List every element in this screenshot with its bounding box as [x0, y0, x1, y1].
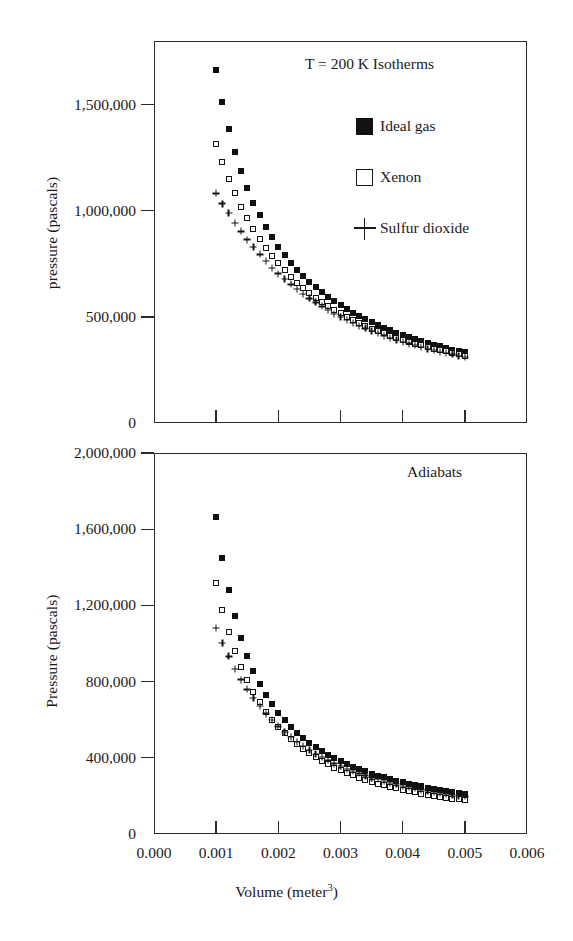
data-point-ideal-gas [219, 99, 225, 105]
data-point-xenon [294, 280, 300, 286]
data-point-sulfur-dioxide [244, 686, 251, 693]
x-tick-label: 0.005 [447, 844, 482, 862]
x-tick-label: 0.004 [385, 844, 420, 862]
data-point-sulfur-dioxide [231, 219, 238, 226]
data-point-xenon [213, 580, 219, 586]
data-point-xenon [226, 629, 232, 635]
data-point-ideal-gas [275, 244, 281, 250]
data-point-xenon [250, 226, 256, 232]
data-point-xenon [244, 215, 250, 221]
data-point-xenon [213, 141, 219, 147]
data-point-xenon [282, 267, 288, 273]
data-point-ideal-gas [269, 701, 275, 707]
data-point-sulfur-dioxide [461, 353, 468, 360]
data-point-ideal-gas [232, 613, 238, 619]
data-point-sulfur-dioxide [461, 793, 468, 800]
data-point-sulfur-dioxide [250, 695, 257, 702]
data-point-xenon [257, 236, 263, 242]
panel-isotherms: pressure (pascals) 0500,0001,000,0001,50… [0, 0, 573, 452]
data-point-ideal-gas [282, 717, 288, 723]
data-point-ideal-gas [369, 319, 375, 325]
data-point-ideal-gas [250, 200, 256, 206]
data-point-ideal-gas [232, 149, 238, 155]
data-point-xenon [232, 190, 238, 196]
data-point-ideal-gas [344, 306, 350, 312]
data-point-ideal-gas [282, 252, 288, 258]
panel-adiabats: Pressure (pascals) 0400,000800,0001,200,… [0, 452, 573, 941]
data-point-sulfur-dioxide [219, 200, 226, 207]
data-point-ideal-gas [350, 310, 356, 316]
data-point-ideal-gas [238, 635, 244, 641]
data-point-ideal-gas [257, 681, 263, 687]
x-tick-label: 0.001 [199, 844, 234, 862]
data-point-ideal-gas [263, 692, 269, 698]
data-point-ideal-gas [294, 267, 300, 273]
data-point-ideal-gas [275, 710, 281, 716]
data-point-xenon [238, 204, 244, 210]
data-point-xenon [238, 664, 244, 670]
data-point-ideal-gas [226, 587, 232, 593]
data-point-ideal-gas [269, 234, 275, 240]
data-point-xenon [275, 260, 281, 266]
data-point-sulfur-dioxide [231, 665, 238, 672]
data-point-ideal-gas [219, 555, 225, 561]
data-point-ideal-gas [306, 279, 312, 285]
top-data-markers [0, 0, 573, 452]
data-point-ideal-gas [319, 289, 325, 295]
data-point-xenon [226, 176, 232, 182]
data-point-xenon [219, 159, 225, 165]
data-point-ideal-gas [325, 294, 331, 300]
data-point-ideal-gas [226, 126, 232, 132]
data-point-ideal-gas [257, 212, 263, 218]
data-point-ideal-gas [331, 298, 337, 304]
data-point-ideal-gas [288, 260, 294, 266]
data-point-ideal-gas [238, 168, 244, 174]
data-point-ideal-gas [338, 302, 344, 308]
data-point-sulfur-dioxide [238, 676, 245, 683]
data-point-sulfur-dioxide [219, 639, 226, 646]
data-point-sulfur-dioxide [225, 653, 232, 660]
data-point-ideal-gas [244, 185, 250, 191]
x-tick-label: 0.006 [510, 844, 545, 862]
data-point-ideal-gas [313, 744, 319, 750]
data-point-ideal-gas [294, 730, 300, 736]
data-point-sulfur-dioxide [256, 703, 263, 710]
data-point-xenon [269, 253, 275, 259]
data-point-xenon [244, 677, 250, 683]
data-point-ideal-gas [306, 740, 312, 746]
figure-root: pressure (pascals) 0500,0001,000,0001,50… [0, 0, 573, 941]
data-point-sulfur-dioxide [213, 190, 220, 197]
data-point-ideal-gas [213, 67, 219, 73]
data-point-ideal-gas [288, 724, 294, 730]
data-point-xenon [263, 245, 269, 251]
data-point-xenon [232, 648, 238, 654]
x-tick-label: 0.000 [137, 844, 172, 862]
data-point-ideal-gas [213, 514, 219, 520]
data-point-sulfur-dioxide [213, 624, 220, 631]
x-tick-label: 0.002 [261, 844, 296, 862]
data-point-xenon [219, 607, 225, 613]
x-tick-label: 0.003 [323, 844, 358, 862]
data-point-sulfur-dioxide [225, 210, 232, 217]
data-point-ideal-gas [244, 653, 250, 659]
x-axis-title-suffix: ) [333, 883, 338, 900]
x-axis-title: Volume (meter3) [0, 882, 573, 901]
data-point-ideal-gas [356, 313, 362, 319]
data-point-ideal-gas [300, 735, 306, 741]
data-point-sulfur-dioxide [244, 236, 251, 243]
data-point-xenon [288, 274, 294, 280]
x-axis-title-text: Volume (meter [235, 883, 327, 900]
bottom-data-markers [0, 452, 573, 941]
data-point-ideal-gas [250, 668, 256, 674]
data-point-sulfur-dioxide [250, 244, 257, 251]
data-point-ideal-gas [313, 284, 319, 290]
data-point-ideal-gas [362, 316, 368, 322]
data-point-sulfur-dioxide [238, 228, 245, 235]
data-point-ideal-gas [300, 273, 306, 279]
data-point-ideal-gas [263, 224, 269, 230]
